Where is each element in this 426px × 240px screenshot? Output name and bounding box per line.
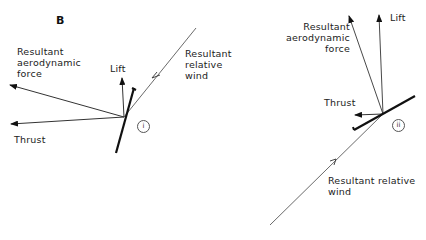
label-relative-wind-ii: Resultant relative wind bbox=[328, 175, 415, 197]
label-relative-wind: Resultant relative wind bbox=[185, 48, 232, 81]
marker-i: i bbox=[137, 120, 150, 133]
wing-flap-ii bbox=[353, 127, 354, 130]
resultant-aero-force-vector bbox=[10, 85, 124, 117]
label-resultant-aero-force: Resultant aerodynamic force bbox=[17, 46, 81, 79]
label-resultant-aero-force-ii: Resultant aerodynamic force bbox=[286, 21, 350, 54]
thrust-vector bbox=[11, 117, 124, 124]
label-thrust: Thrust bbox=[14, 134, 46, 145]
label-lift: Lift bbox=[110, 63, 126, 74]
relative-wind-line-ii bbox=[270, 114, 383, 225]
lift-vector bbox=[122, 78, 124, 117]
lift-vector-ii bbox=[379, 15, 383, 114]
marker-ii: ii bbox=[392, 119, 405, 132]
wing-chord-ii bbox=[354, 96, 415, 130]
thrust-vector-ii bbox=[355, 114, 383, 115]
label-thrust-ii: Thrust bbox=[324, 97, 356, 108]
wing-chord bbox=[116, 88, 134, 153]
label-lift-ii: Lift bbox=[390, 12, 406, 23]
relative-wind-arrowhead-ii bbox=[330, 159, 336, 165]
force-vector-diagrams bbox=[0, 0, 426, 240]
diagram-label-b: B bbox=[56, 14, 64, 27]
